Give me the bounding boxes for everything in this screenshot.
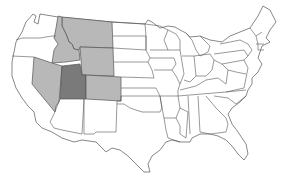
state-wyoming — [80, 47, 114, 76]
us-map — [0, 0, 295, 178]
state-colorado — [86, 75, 121, 101]
